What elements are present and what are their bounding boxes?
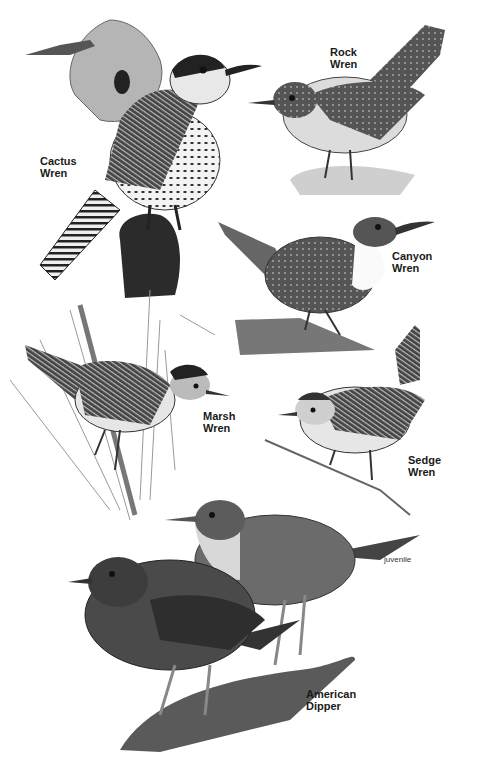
label-juvenile: juvenile: [384, 555, 411, 564]
american-dipper-group: [68, 500, 420, 752]
label-marsh-wren: Marsh Wren: [203, 410, 235, 434]
label-sedge-wren: Sedge Wren: [408, 454, 441, 478]
label-rock-wren: Rock Wren: [330, 46, 357, 70]
field-guide-plate: Cactus Wren Rock Wren Canyon Wren Marsh …: [0, 0, 479, 773]
label-american-dipper: American Dipper: [306, 688, 356, 712]
bird-illustrations: [0, 0, 479, 773]
label-canyon-wren: Canyon Wren: [392, 250, 432, 274]
marsh-wren-group: [25, 345, 230, 470]
sedge-wren-group: [265, 325, 425, 515]
canyon-wren-group: [218, 217, 435, 355]
label-cactus-wren: Cactus Wren: [40, 155, 77, 179]
